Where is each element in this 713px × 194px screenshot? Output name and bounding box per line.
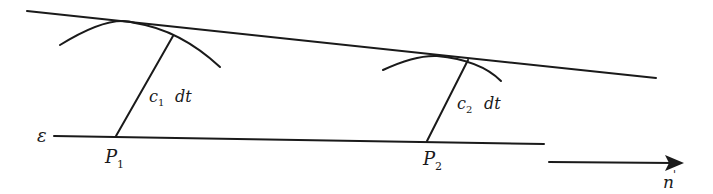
normal-prime: ' [673, 168, 676, 181]
epsilon-label: ε [37, 125, 47, 146]
p2-letter: P [422, 148, 436, 169]
c1-dt-text: dt [175, 87, 192, 106]
normal-direction-arrow [549, 155, 684, 171]
wavelet-arc-1 [60, 21, 220, 67]
c2-dt-text: dt [484, 94, 501, 113]
c1-dt-label: c 1 dt [149, 87, 192, 108]
c1-subscript: 1 [158, 97, 164, 108]
wavefront-diagram: ε P 1 P 2 c 1 dt c 2 dt n ' [0, 0, 713, 194]
radius-line-c1-dt [116, 36, 173, 136]
interface-line-epsilon [54, 136, 544, 144]
p2-subscript: 2 [435, 160, 442, 173]
normal-label: n ' [663, 168, 676, 192]
c2-subscript: 2 [466, 104, 472, 115]
c2-dt-label: c 2 dt [457, 94, 501, 115]
p1-subscript: 1 [117, 158, 124, 171]
c1-letter: c [149, 87, 158, 106]
p2-label: P 2 [422, 148, 442, 173]
p1-letter: P [104, 146, 118, 167]
p1-label: P 1 [104, 146, 124, 171]
arrow-shaft [549, 162, 674, 163]
c2-letter: c [457, 94, 466, 113]
